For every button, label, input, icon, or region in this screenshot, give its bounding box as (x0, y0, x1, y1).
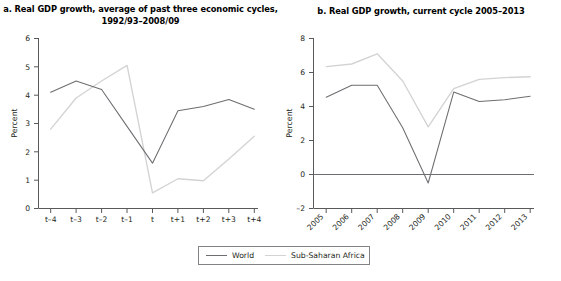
ytick-label: –2 (296, 204, 305, 213)
xtick-label: t–2 (96, 215, 108, 224)
legend-swatch-world-icon (206, 255, 227, 256)
legend-entry-sub-saharan-africa: Sub-Saharan Africa (265, 251, 365, 260)
xtick-label: 2009 (407, 212, 427, 232)
ytick-label: 6 (25, 34, 30, 43)
panel-a-ytick-labels: 6 5 4 3 2 1 0 (25, 34, 30, 213)
legend-label-sub-saharan-africa: Sub-Saharan Africa (291, 251, 365, 260)
ytick-label: 1 (25, 176, 30, 185)
xtick-label: 2012 (484, 212, 504, 232)
ytick-label: 0 (25, 204, 30, 213)
ytick-label: 5 (25, 63, 30, 72)
xtick-label: t–4 (45, 215, 57, 224)
panel-b-series-sub-saharan-africa (326, 54, 530, 127)
xtick-label: 2013 (509, 212, 529, 232)
panel-b-ytick-marks (309, 39, 314, 209)
panel-a-series-world (51, 81, 255, 163)
panel-a-series-sub-saharan-africa (51, 65, 255, 193)
panel-b-plot: 8 6 4 2 0 –2 Percent 2005 (281, 0, 561, 240)
ytick-label: 3 (25, 119, 30, 128)
panel-b-xtick-marks (326, 209, 530, 214)
xtick-label: 2010 (433, 212, 453, 232)
chart-panel-a: a. Real GDP growth, average of past thre… (0, 0, 281, 240)
ytick-label: 6 (300, 68, 305, 77)
panel-a-ytick-marks (34, 39, 39, 209)
ytick-label: 4 (25, 91, 30, 100)
xtick-label: t (151, 215, 154, 224)
xtick-label: t+1 (171, 215, 185, 224)
legend-swatch-sub-saharan-africa-icon (265, 255, 286, 256)
legend-entry-world: World (206, 251, 254, 260)
panel-a-ylabel: Percent (10, 108, 19, 137)
xtick-label: t+4 (247, 215, 261, 224)
ytick-label: 2 (25, 148, 30, 157)
xtick-label: t–3 (70, 215, 82, 224)
panel-a-xtick-marks (51, 209, 255, 214)
xtick-label: 2005 (305, 212, 325, 232)
figure-container: a. Real GDP growth, average of past thre… (0, 0, 561, 281)
panel-a-xtick-labels: t–4 t–3 t–2 t–1 t t+1 t+2 t+3 t+4 (45, 215, 262, 224)
legend-label-world: World (232, 251, 254, 260)
ytick-label: 2 (300, 136, 305, 145)
ytick-label: 8 (300, 34, 305, 43)
ytick-label: 4 (300, 102, 305, 111)
xtick-label: t–1 (121, 215, 133, 224)
xtick-label: 2007 (356, 212, 376, 232)
xtick-label: 2006 (331, 212, 351, 232)
xtick-label: t+3 (222, 215, 236, 224)
panel-b-series-world (326, 85, 530, 183)
chart-panel-b: b. Real GDP growth, current cycle 2005–2… (281, 0, 561, 240)
panel-b-xtick-labels: 2005 2006 2007 2008 2009 2010 2011 2012 … (305, 212, 529, 232)
chart-legend: World Sub-Saharan Africa (198, 246, 370, 265)
panel-b-ylabel: Percent (285, 108, 294, 137)
xtick-label: t+2 (196, 215, 210, 224)
panel-a-plot: 6 5 4 3 2 1 0 Percent t–4 (0, 0, 281, 240)
panel-b-ytick-labels: 8 6 4 2 0 –2 (296, 34, 305, 213)
ytick-label: 0 (300, 170, 305, 179)
panel-b-title: b. Real GDP growth, current cycle 2005–2… (281, 6, 561, 18)
xtick-label: 2008 (382, 212, 402, 232)
xtick-label: 2011 (458, 212, 478, 232)
panel-a-title: a. Real GDP growth, average of past thre… (0, 4, 281, 27)
